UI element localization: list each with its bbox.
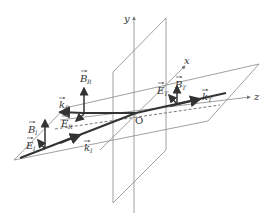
- k-reflected-ray2: [60, 112, 83, 113]
- svg-text:R: R: [67, 123, 73, 130]
- label-b-reflected: B R: [79, 71, 92, 85]
- z-axis-label: z: [253, 91, 260, 102]
- label-b-transmitted: B T: [174, 77, 187, 91]
- svg-text:T: T: [182, 84, 187, 91]
- x-axis-label: x: [184, 55, 190, 66]
- label-e-reflected: E R: [60, 116, 73, 130]
- e-transmitted-vector: [169, 95, 177, 104]
- svg-text:I: I: [89, 147, 93, 154]
- label-k-incident: k I: [84, 141, 93, 154]
- y-axis-label: y: [123, 13, 130, 24]
- label-b-incident: B I: [27, 122, 38, 136]
- diagram-canvas: y x z O B R k R E R B I E I k I E T B T: [0, 0, 271, 224]
- e-incident-vector: [38, 140, 45, 149]
- origin-label: O: [135, 115, 143, 126]
- svg-text:I: I: [34, 129, 38, 136]
- svg-text:T: T: [164, 90, 169, 97]
- svg-text:I: I: [32, 145, 36, 152]
- label-e-incident: E I: [25, 138, 36, 152]
- svg-text:R: R: [86, 78, 92, 85]
- label-k-transmitted: k T: [202, 90, 213, 103]
- k-incident-arrow: [60, 135, 80, 143]
- svg-text:R: R: [64, 104, 70, 111]
- label-k-reflected: k R: [59, 98, 70, 111]
